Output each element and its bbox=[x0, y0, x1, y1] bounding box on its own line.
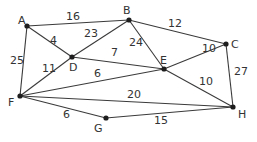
node-h bbox=[230, 104, 235, 109]
edge-weight-d-f: 11 bbox=[42, 62, 56, 75]
weighted-graph: 16425232412711610271020615 ABCDEFGH bbox=[0, 0, 257, 142]
edge-weight-b-e: 24 bbox=[129, 36, 143, 49]
edge-weights-group: 16425232412711610271020615 bbox=[10, 10, 248, 127]
edge-weight-c-e: 10 bbox=[202, 42, 216, 55]
node-label-e: E bbox=[160, 54, 167, 67]
edge-weight-a-f: 25 bbox=[10, 54, 24, 67]
edge-weight-f-h: 20 bbox=[127, 88, 141, 101]
node-label-b: B bbox=[123, 4, 131, 17]
edge-d-e bbox=[72, 57, 164, 69]
node-label-f: F bbox=[8, 96, 14, 109]
edge-c-e bbox=[164, 44, 226, 69]
edge-weight-d-e: 7 bbox=[111, 46, 118, 59]
node-g bbox=[103, 115, 108, 120]
edge-weight-f-e: 6 bbox=[94, 67, 101, 80]
edge-g-h bbox=[106, 107, 233, 118]
node-c bbox=[223, 41, 228, 46]
edge-weight-e-h: 10 bbox=[199, 75, 213, 88]
node-label-a: A bbox=[18, 14, 26, 27]
node-label-c: C bbox=[231, 38, 239, 51]
edge-c-h bbox=[226, 44, 233, 107]
edge-weight-a-b: 16 bbox=[66, 10, 80, 23]
edge-weight-b-d: 23 bbox=[84, 27, 98, 40]
node-b bbox=[126, 17, 131, 22]
edge-weight-b-c: 12 bbox=[168, 17, 182, 30]
edge-weight-c-h: 27 bbox=[234, 65, 248, 78]
edge-weight-a-d: 4 bbox=[50, 34, 57, 47]
node-f bbox=[17, 93, 22, 98]
edge-b-d bbox=[72, 20, 129, 57]
edge-weight-g-h: 15 bbox=[154, 114, 168, 127]
node-label-g: G bbox=[94, 122, 103, 135]
node-label-d: D bbox=[69, 61, 77, 74]
node-e bbox=[161, 66, 166, 71]
node-d bbox=[69, 54, 74, 59]
edge-weight-f-g: 6 bbox=[63, 108, 70, 121]
node-label-h: H bbox=[238, 108, 246, 121]
